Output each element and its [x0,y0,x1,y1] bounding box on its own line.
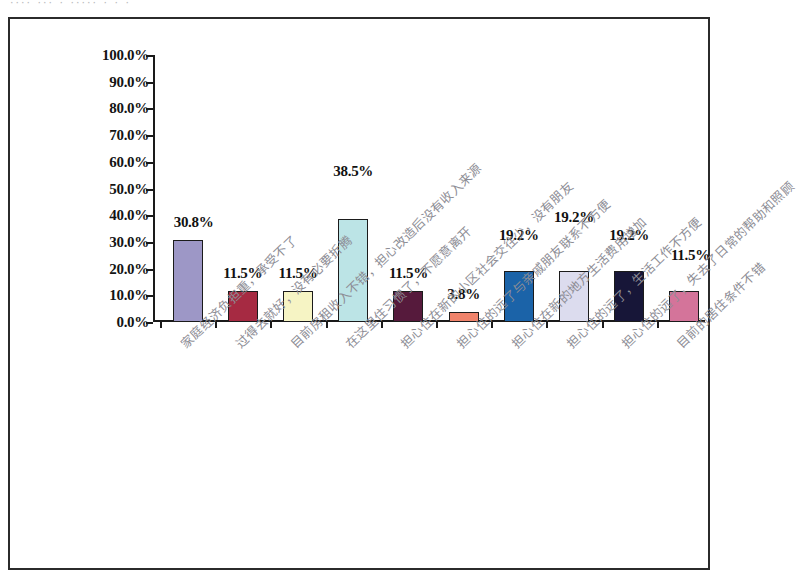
y-axis-tick [146,82,153,84]
bar [559,271,589,322]
bar-value-label: 11.5% [279,265,318,282]
y-axis-tick-label: 50.0% [109,180,149,197]
x-axis-tick [160,322,162,328]
bar [614,271,644,322]
bar-value-label: 19.2% [554,209,594,226]
y-axis-tick [146,108,153,110]
bar-value-label: 11.5% [223,265,262,282]
x-axis-tick [546,322,548,328]
bar [669,291,699,322]
x-axis-tick [381,322,383,328]
y-axis-tick-label: 30.0% [109,233,149,250]
bar [228,291,258,322]
clipped-header-text: ···· ··· · ····· · · · [10,0,310,8]
y-axis-tick-labels: 100.0%90.0%80.0%70.0%60.0%50.0%40.0%30.0… [50,46,149,331]
bar [504,271,534,322]
x-axis-tick [602,322,604,328]
y-axis-tick [146,189,153,191]
bar [449,312,479,322]
x-axis-tick [326,322,328,328]
x-axis-tick [436,322,438,328]
y-axis-tick [146,162,153,164]
y-axis-tick-label: 90.0% [109,73,149,90]
x-axis-tick [657,322,659,328]
y-axis-tick-label: 20.0% [109,260,149,277]
x-axis-tick [491,322,493,328]
bar-value-label: 11.5% [389,265,428,282]
y-axis-line [153,55,155,322]
x-axis-tick [270,322,272,328]
x-axis-tick [215,322,217,328]
bar-value-label: 30.8% [174,214,214,231]
y-axis-tick [146,242,153,244]
bar [393,291,423,322]
y-axis-tick-label: 0.0% [116,314,149,331]
y-axis-tick [146,269,153,271]
bar [173,240,203,322]
bar-value-label: 3.8% [447,286,480,303]
y-axis-tick [146,215,153,217]
chart-frame: 100.0%90.0%80.0%70.0%60.0%50.0%40.0%30.0… [8,17,710,570]
plot-area: 30.8%11.5%11.5%38.5%11.5%3.8%19.2%19.2%1… [153,55,705,322]
bar-value-label: 19.2% [609,227,649,244]
bar-value-label: 38.5% [333,163,373,180]
y-axis-tick-label: 40.0% [109,207,149,224]
y-axis-tick-label: 80.0% [109,100,149,117]
y-axis-tick [146,295,153,297]
bar [283,291,313,322]
bar [338,219,368,322]
bar-value-label: 11.5% [671,247,710,264]
y-axis-tick [146,135,153,137]
bar-value-label: 19.2% [499,227,539,244]
y-axis-tick-label: 100.0% [102,47,149,64]
y-axis-tick-label: 70.0% [109,127,149,144]
y-axis-tick-label: 10.0% [109,287,149,304]
y-axis-tick [146,55,153,57]
y-axis-tick [146,322,153,324]
y-axis-tick-label: 60.0% [109,153,149,170]
